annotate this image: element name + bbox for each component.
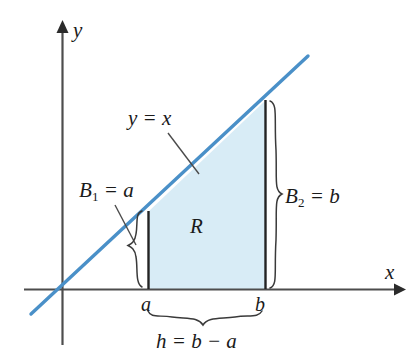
brace-b2 <box>270 101 282 288</box>
x-tick-label-b: b <box>255 294 265 314</box>
x-axis-label: x <box>385 262 394 283</box>
y-axis <box>57 20 69 345</box>
width-label: h = b − a <box>156 331 237 352</box>
x-tick-label-a: a <box>141 294 151 314</box>
line-equation-label: y = x <box>128 108 171 129</box>
leader-line-b1 <box>115 205 136 245</box>
region-label: R <box>190 216 203 237</box>
left-base-label: B1 = a <box>79 180 134 203</box>
diagram-svg <box>0 0 413 364</box>
right-base-symbol: B <box>285 184 298 208</box>
brace-h <box>148 311 262 325</box>
figure-canvas: y x y = x B1 = a B2 = b R a b h = b − a <box>0 0 413 364</box>
left-base-value: = a <box>104 178 134 202</box>
right-base-label: B2 = b <box>285 186 340 209</box>
x-axis-arrow-icon <box>394 284 406 296</box>
left-base-symbol: B <box>79 178 92 202</box>
y-axis-label: y <box>73 20 82 41</box>
right-base-value: = b <box>310 184 340 208</box>
right-base-subscript: 2 <box>298 195 305 210</box>
leader-line-y-equals-x <box>168 133 199 174</box>
left-base-subscript: 1 <box>92 189 99 204</box>
y-axis-arrow-icon <box>57 20 69 33</box>
